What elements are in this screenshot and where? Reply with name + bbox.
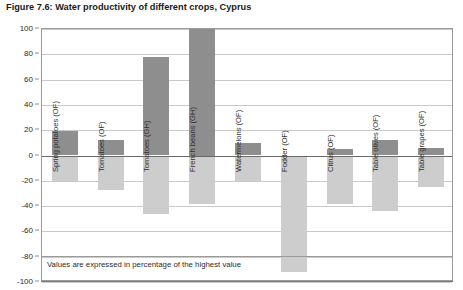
y-axis-tick-mark xyxy=(35,179,39,180)
y-axis-tick-label: -20 xyxy=(21,175,33,184)
y-axis-tick-label: 40 xyxy=(24,99,33,108)
y-axis-tick-label: 20 xyxy=(24,125,33,134)
y-axis: 100806040200-20-40-60-80-100 xyxy=(0,28,39,281)
y-axis-tick-label: -80 xyxy=(21,251,33,260)
y-axis-tick-label: 0 xyxy=(29,150,33,159)
x-axis-category-label: Fodder (OF) xyxy=(280,130,289,172)
x-axis-category-label: Table olives (OF) xyxy=(371,114,380,171)
y-axis-tick-mark xyxy=(35,205,39,206)
y-axis-tick-mark xyxy=(35,129,39,130)
x-axis-category-label: Watermelons (OF) xyxy=(234,109,243,171)
x-axis-category-label: Tomatoes (OF) xyxy=(97,121,106,172)
y-axis-tick-mark xyxy=(35,28,39,29)
x-axis-category-label: Tomatoes (GH) xyxy=(142,120,151,171)
y-axis-tick-label: -60 xyxy=(21,226,33,235)
y-axis-tick-label: 80 xyxy=(24,49,33,58)
y-axis-tick-mark xyxy=(35,281,39,282)
y-axis-tick-mark xyxy=(35,154,39,155)
x-axis-category-label: Spring potatoes (OF) xyxy=(51,101,60,172)
y-axis-tick-mark xyxy=(35,53,39,54)
x-axis-category-label: Table grapes (OF) xyxy=(417,110,426,171)
footnote-label: Values are expressed in percentage of th… xyxy=(47,260,241,269)
page-title: Figure 7.6: Water productivity of differ… xyxy=(6,2,251,12)
gridline xyxy=(42,282,452,283)
y-axis-tick-mark xyxy=(35,255,39,256)
x-axis-category-label: Citrus (OF) xyxy=(326,134,335,172)
bottom-rule xyxy=(41,281,453,282)
figure-container: Figure 7.6: Water productivity of differ… xyxy=(0,0,463,290)
y-axis-tick-label: -100 xyxy=(17,277,33,286)
y-axis-tick-label: 60 xyxy=(24,74,33,83)
y-axis-tick-mark xyxy=(35,78,39,79)
y-axis-tick-label: -40 xyxy=(21,201,33,210)
y-axis-tick-label: 100 xyxy=(20,24,33,33)
y-axis-tick-mark xyxy=(35,230,39,231)
x-axis-category-label: French beans (GH) xyxy=(188,107,197,172)
y-axis-tick-mark xyxy=(35,103,39,104)
